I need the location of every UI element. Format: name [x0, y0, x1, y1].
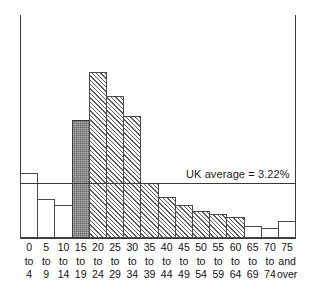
histogram-bar	[54, 205, 72, 238]
histogram-bar	[140, 183, 158, 238]
histogram-bar	[278, 221, 296, 238]
histogram-bar	[175, 205, 193, 238]
histogram-chart: UK average = 3.22% 0to45to910to1415to192…	[0, 0, 312, 286]
histogram-bar	[123, 116, 141, 238]
histogram-bar	[261, 228, 279, 238]
histogram-bar	[209, 214, 227, 238]
x-axis-tick-labels: 0to45to910to1415to1920to2425to2930to3435…	[20, 241, 296, 286]
histogram-bar	[226, 217, 244, 238]
uk-average-label: UK average = 3.22%	[186, 168, 290, 180]
x-tick-label-line: over	[274, 268, 300, 282]
x-tick-label-line: and	[274, 255, 300, 269]
histogram-bar	[89, 72, 107, 238]
uk-average-reference-line	[20, 183, 296, 184]
histogram-bar	[192, 211, 210, 238]
plot-area	[20, 15, 295, 238]
plot-right-border	[295, 15, 296, 238]
x-axis-line	[20, 238, 296, 239]
histogram-bar	[37, 199, 55, 238]
histogram-bar	[72, 120, 90, 238]
histogram-bar	[158, 197, 176, 238]
histogram-bar	[106, 96, 124, 238]
x-tick-label-line: 75	[274, 241, 300, 255]
histogram-bar	[244, 226, 262, 238]
x-tick-label: 75andover	[274, 241, 300, 282]
